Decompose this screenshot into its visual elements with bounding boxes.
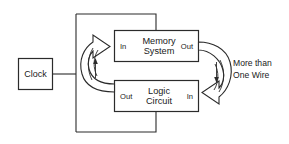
diagram-canvas: Clock Memory System In Out Logic Circuit… [0, 0, 289, 144]
feedback-arrow-right-body [199, 42, 232, 104]
more-than-one-wire-line1: More than [233, 58, 272, 68]
more-than-one-wire-annotation: More than One Wire [233, 58, 272, 80]
logic-output-port-label: Out [120, 92, 133, 101]
more-than-one-wire-line2: One Wire [233, 70, 270, 80]
clock-box-label: Clock [24, 69, 47, 79]
memory-box-title-line2: System [144, 46, 175, 56]
memory-input-port-label: In [120, 42, 126, 51]
feedback-arrow-left-body [81, 35, 115, 92]
block-diagram: Clock Memory System In Out Logic Circuit… [0, 0, 289, 144]
logic-box-title-line2: Circuit [146, 96, 172, 106]
memory-system-box: Memory System In Out [115, 31, 199, 62]
clock-to-logic-wire [76, 112, 156, 132]
clock-box: Clock [19, 59, 53, 90]
logic-input-port-label: In [187, 92, 193, 101]
logic-out-to-memory-in-arrow [81, 35, 115, 92]
logic-box-title-line1: Logic [148, 86, 170, 96]
memory-out-to-logic-in-arrow [199, 42, 232, 104]
logic-circuit-box: Logic Circuit Out In [115, 81, 199, 112]
clock-to-memory-wire [76, 14, 156, 30]
memory-box-title-line1: Memory [142, 36, 176, 46]
memory-output-port-label: Out [181, 42, 194, 51]
